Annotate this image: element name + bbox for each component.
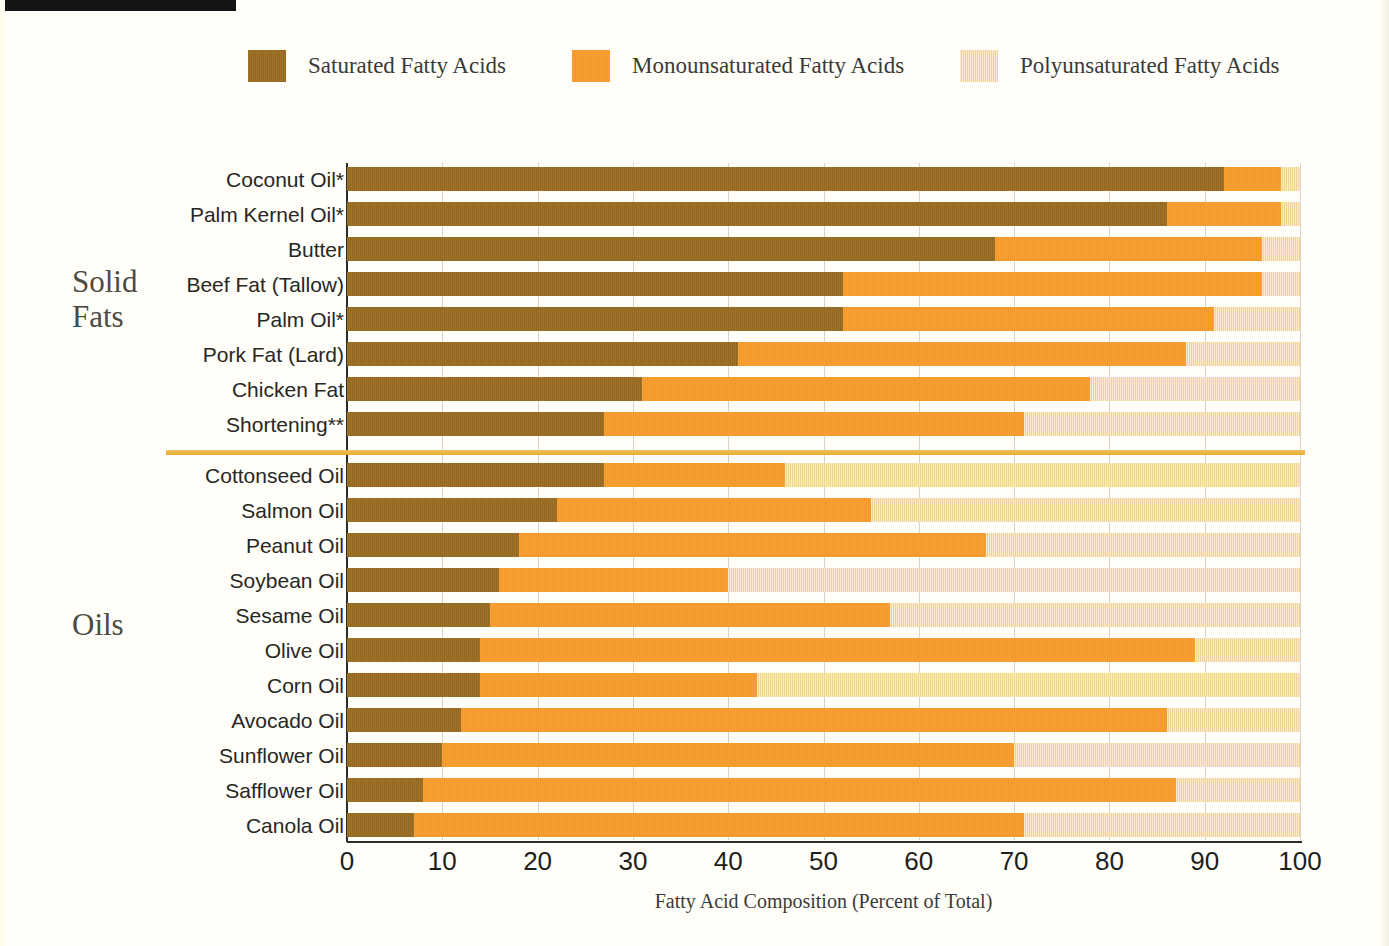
chart-legend: Saturated Fatty Acids Monounsaturated Fa… [0,50,1389,92]
bar-row [347,307,1300,331]
bar-segment-saturated [347,237,995,261]
scan-artifact-bar [0,0,236,11]
legend-item-monounsaturated: Monounsaturated Fatty Acids [572,50,904,82]
bar-segment-monounsaturated [461,708,1166,732]
category-label: Coconut Oil* [44,168,344,192]
bar-segment-monounsaturated [1224,167,1281,191]
category-label: Olive Oil [44,639,344,663]
bar-segment-monounsaturated [843,307,1215,331]
bar-row [347,463,1300,487]
bar-segment-monounsaturated [604,412,1023,436]
bar-segment-polyunsaturated [1214,307,1300,331]
bar-segment-monounsaturated [995,237,1262,261]
bar-segment-saturated [347,202,1167,226]
x-axis-label: Fatty Acid Composition (Percent of Total… [347,890,1300,913]
bar-segment-monounsaturated [480,673,756,697]
group-divider-line [166,450,1305,455]
bar-segment-monounsaturated [604,463,785,487]
bar-segment-polyunsaturated [1281,202,1300,226]
bar-row [347,813,1300,837]
category-label: Peanut Oil [44,534,344,558]
x-tick-label-70: 70 [1000,846,1029,877]
x-tick-label-60: 60 [904,846,933,877]
legend-item-polyunsaturated: Polyunsaturated Fatty Acids [960,50,1279,82]
bar-segment-monounsaturated [843,272,1262,296]
bar-segment-polyunsaturated [757,673,1300,697]
bar-segment-monounsaturated [642,377,1090,401]
page-left-edge [0,0,5,946]
category-label: Soybean Oil [44,569,344,593]
category-label: Palm Kernel Oil* [44,203,344,227]
legend-label-monounsaturated: Monounsaturated Fatty Acids [632,53,904,79]
bar-row [347,673,1300,697]
bar-segment-polyunsaturated [1176,778,1300,802]
bar-segment-polyunsaturated [1090,377,1300,401]
x-axis-ticks: 0102030405060708090100 [347,846,1300,886]
category-label: Sesame Oil [44,604,344,628]
bar-segment-monounsaturated [738,342,1186,366]
bar-segment-monounsaturated [499,568,728,592]
bar-segment-monounsaturated [414,813,1024,837]
bar-segment-polyunsaturated [871,498,1300,522]
bar-row [347,743,1300,767]
bar-segment-saturated [347,412,604,436]
legend-label-polyunsaturated: Polyunsaturated Fatty Acids [1020,53,1279,79]
bar-segment-saturated [347,167,1224,191]
x-tick-label-0: 0 [340,846,354,877]
bar-segment-saturated [347,342,738,366]
category-label: Sunflower Oil [44,744,344,768]
x-tick-label-50: 50 [809,846,838,877]
category-label: Corn Oil [44,674,344,698]
bar-segment-saturated [347,813,414,837]
bar-row [347,533,1300,557]
bar-row [347,568,1300,592]
x-axis-line [347,841,1302,843]
bar-segment-saturated [347,377,642,401]
chart-plot-area [347,163,1300,840]
bar-segment-polyunsaturated [785,463,1300,487]
legend-swatch-saturated-icon [248,50,286,82]
bar-segment-saturated [347,307,843,331]
bar-segment-polyunsaturated [1024,412,1300,436]
bar-segment-saturated [347,603,490,627]
legend-item-saturated: Saturated Fatty Acids [248,50,506,82]
x-tick-label-90: 90 [1190,846,1219,877]
category-label: Salmon Oil [44,499,344,523]
category-label: Cottonseed Oil [44,464,344,488]
category-label: Palm Oil* [44,308,344,332]
category-label: Beef Fat (Tallow) [44,273,344,297]
bar-segment-monounsaturated [490,603,890,627]
category-label: Canola Oil [44,814,344,838]
bar-segment-saturated [347,463,604,487]
bar-segment-polyunsaturated [1262,272,1300,296]
x-tick-label-80: 80 [1095,846,1124,877]
bar-row [347,498,1300,522]
bar-row [347,272,1300,296]
bar-row [347,412,1300,436]
bar-segment-monounsaturated [519,533,986,557]
bar-segment-saturated [347,778,423,802]
bar-segment-polyunsaturated [1195,638,1300,662]
bar-segment-polyunsaturated [1281,167,1300,191]
bar-segment-monounsaturated [423,778,1176,802]
x-tick-label-10: 10 [428,846,457,877]
bar-segment-saturated [347,708,461,732]
bar-segment-saturated [347,568,499,592]
bar-segment-monounsaturated [480,638,1195,662]
bar-segment-saturated [347,498,557,522]
bar-row [347,237,1300,261]
bar-segment-monounsaturated [557,498,871,522]
bar-segment-saturated [347,743,442,767]
legend-label-saturated: Saturated Fatty Acids [308,53,506,79]
bar-segment-monounsaturated [1167,202,1281,226]
bar-segment-polyunsaturated [1014,743,1300,767]
category-label: Shortening** [44,413,344,437]
x-tick-label-40: 40 [714,846,743,877]
bar-segment-polyunsaturated [1024,813,1300,837]
x-tick-label-100: 100 [1278,846,1321,877]
bar-segment-saturated [347,272,843,296]
category-label: Chicken Fat [44,378,344,402]
legend-swatch-polyunsaturated-icon [960,50,998,82]
legend-swatch-monounsaturated-icon [572,50,610,82]
bar-segment-polyunsaturated [1186,342,1300,366]
